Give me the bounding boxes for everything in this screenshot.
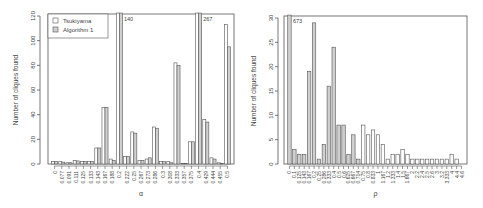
legend: TsukiyamaAlgorithm 1 (48, 14, 108, 38)
bar (203, 120, 206, 164)
x-axis-label: ρ (374, 190, 378, 198)
x-tick-label: 0.273 (145, 171, 151, 184)
bar (206, 122, 209, 164)
y-tick-label: 25 (268, 38, 274, 45)
bar (430, 159, 433, 164)
bar (210, 158, 213, 164)
bar (181, 163, 184, 164)
bar (59, 162, 62, 164)
bar (406, 154, 409, 164)
bar (455, 159, 458, 164)
y-tick-label: 0 (268, 162, 274, 166)
x-tick-label: 0.222 (124, 171, 130, 184)
bar-annotation: 267 (203, 16, 212, 22)
x-tick-label: 0.111 (73, 171, 79, 183)
bar (174, 63, 177, 164)
y-axis-label: Number of cliques found (250, 55, 258, 126)
bar (420, 159, 423, 164)
chart-alpha: 020406080100120Number of cliques found00… (0, 0, 242, 208)
bar (293, 149, 296, 164)
bar (302, 154, 305, 164)
bar (366, 135, 369, 164)
bar (119, 13, 122, 164)
bar (163, 162, 166, 164)
bar (124, 157, 127, 164)
bar (298, 154, 301, 164)
x-tick-label: 0.455 (217, 171, 223, 184)
legend-label: Algorithm 1 (63, 27, 94, 33)
x-tick-label: 0.267 (138, 171, 144, 184)
y-tick-label: 0 (30, 162, 36, 166)
bar (83, 162, 86, 164)
bar (391, 154, 394, 164)
bar (317, 159, 320, 164)
bar (112, 160, 115, 164)
bar (170, 163, 173, 164)
y-tick-label: 120 (30, 10, 36, 21)
bar (152, 127, 155, 164)
bar (160, 162, 163, 164)
bar (191, 142, 194, 164)
bar (327, 86, 330, 164)
bar (347, 154, 350, 164)
bar (224, 25, 227, 164)
x-tick-label: 0.167 (102, 171, 108, 184)
x-axis-label: α (139, 190, 143, 197)
bar (401, 149, 404, 164)
bar (322, 145, 325, 164)
bar (381, 145, 384, 164)
x-tick-label: 0.333 (174, 171, 180, 184)
bar (337, 125, 340, 164)
x-tick-label: 0.357 (181, 171, 187, 184)
bar (411, 159, 414, 164)
y-tick-label: 20 (30, 135, 36, 142)
x-tick-label: 0.429 (203, 171, 209, 184)
bar (312, 23, 315, 164)
bar (116, 13, 119, 164)
bar (220, 163, 223, 164)
x-tick-label: 0.2 (116, 171, 122, 178)
bar (450, 154, 453, 164)
bar (445, 159, 448, 164)
figure: 020406080100120Number of cliques found00… (0, 0, 483, 208)
plot-frame (284, 16, 467, 164)
bar (288, 15, 291, 164)
bar (88, 162, 91, 164)
x-tick-label: 0.375 (188, 171, 194, 184)
bar (131, 132, 134, 164)
bar (352, 135, 355, 164)
x-tick-label: 0.308 (167, 171, 173, 184)
y-tick-label: 80 (30, 61, 36, 68)
y-tick-label: 5 (268, 137, 274, 141)
y-tick-label: 15 (268, 87, 274, 94)
x-tick-label: 0.444 (210, 171, 216, 184)
y-tick-label: 60 (30, 86, 36, 93)
bar (196, 13, 199, 164)
bar (80, 162, 83, 164)
bar (435, 159, 438, 164)
bar (155, 128, 158, 164)
x-tick-label: 0 (52, 171, 58, 174)
bar-annotation: 140 (124, 16, 133, 22)
bar (148, 158, 151, 164)
legend-swatch (53, 27, 58, 32)
bar (213, 159, 216, 164)
bar (199, 13, 202, 164)
bar (98, 148, 101, 164)
bar-annotation: 673 (293, 18, 302, 24)
bar (361, 125, 364, 164)
legend-label: Tsukiyama (63, 18, 92, 24)
bar (227, 47, 230, 164)
bar (138, 160, 141, 164)
bar (376, 135, 379, 164)
bar (177, 65, 180, 164)
bar (396, 154, 399, 164)
bar (127, 157, 130, 164)
x-tick-label: 0.3 (160, 171, 166, 178)
y-tick-label: 20 (268, 63, 274, 70)
x-tick-label: 0.4 (196, 171, 202, 178)
bar (371, 130, 374, 164)
bar (95, 148, 98, 164)
bar (109, 159, 112, 164)
bar (105, 107, 108, 164)
